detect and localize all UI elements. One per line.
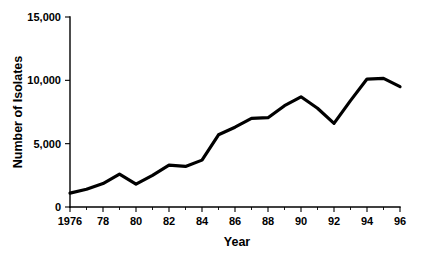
x-axis-tick-labels: 197678808284868890929496 [58, 215, 406, 227]
y-axis-tick-labels: 05,00010,00015,000 [27, 11, 61, 213]
plot-area: 05,00010,00015,000 197678808284868890929… [11, 11, 406, 249]
y-tick-label: 5,000 [33, 138, 61, 150]
line-chart-canvas: 05,00010,00015,000 197678808284868890929… [0, 0, 424, 253]
x-tick-label: 80 [130, 215, 142, 227]
x-tick-label: 84 [196, 215, 209, 227]
y-tick-label: 10,000 [27, 74, 61, 86]
y-tick-label: 15,000 [27, 11, 61, 23]
x-tick-label: 92 [328, 215, 340, 227]
x-tick-label: 88 [262, 215, 274, 227]
x-tick-label: 1976 [58, 215, 82, 227]
x-tick-label: 96 [394, 215, 406, 227]
x-tick-label: 78 [97, 215, 109, 227]
x-tick-label: 86 [229, 215, 241, 227]
data-series-line [70, 78, 400, 193]
y-tick-label: 0 [55, 201, 61, 213]
x-axis-title: Year [224, 235, 251, 249]
x-tick-label: 82 [163, 215, 175, 227]
y-axis [65, 17, 70, 207]
chart-figure: 05,00010,00015,000 197678808284868890929… [0, 0, 424, 253]
x-tick-label: 90 [295, 215, 307, 227]
x-tick-label: 94 [361, 215, 374, 227]
x-axis [70, 207, 400, 212]
y-axis-title: Number of Isolates [11, 56, 25, 169]
